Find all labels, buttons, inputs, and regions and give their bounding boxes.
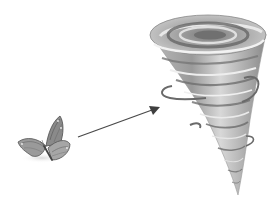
illustration-canvas: Butterfly effect illustration: a butterf… — [0, 0, 280, 207]
tornado-icon — [150, 15, 266, 195]
butterfly-icon — [18, 116, 70, 163]
arrow-right-icon — [78, 106, 160, 137]
butterfly-effect-illustration — [0, 0, 280, 207]
